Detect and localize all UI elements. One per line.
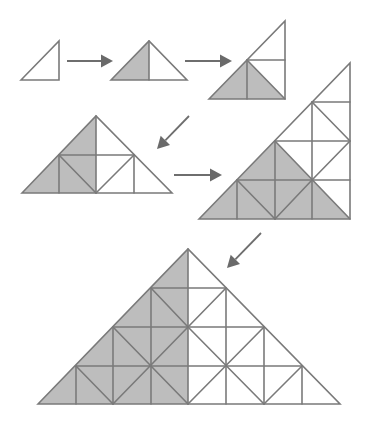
subdivision-line [96, 155, 134, 193]
arrow-3-4-arrow-icon [157, 116, 189, 149]
figure-fig4 [22, 116, 172, 193]
triangle-outline [21, 41, 59, 80]
subdivision-line [312, 141, 350, 180]
figures-layer [21, 21, 350, 404]
arrow-2-3-arrow-icon [185, 55, 232, 68]
triangle-dissection-diagram [0, 0, 370, 427]
arrow-4-5-arrow-icon [174, 169, 222, 182]
subdivision-line [312, 102, 350, 141]
arrow-1-2-arrow-icon [67, 55, 113, 68]
arrow-5-6-arrow-icon [227, 233, 261, 268]
figure-fig1 [21, 41, 59, 80]
figure-fig6 [38, 249, 340, 404]
subdivision-line [188, 288, 226, 327]
figure-fig2 [111, 41, 187, 80]
subdivision-line [264, 366, 302, 404]
